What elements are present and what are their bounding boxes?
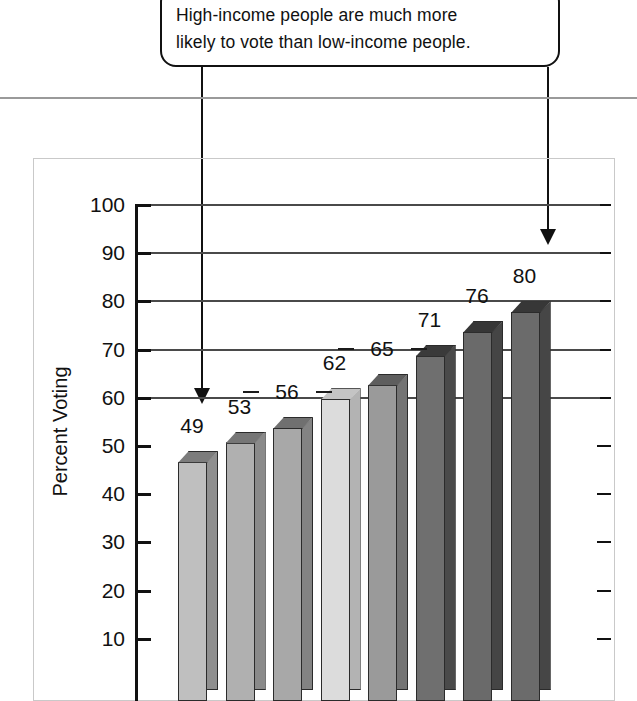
- y-tick-label-50: 50: [79, 434, 125, 458]
- bar-side-face: [350, 388, 361, 690]
- figure-root: High-income people are much more likely …: [0, 0, 637, 701]
- bar-76: [463, 321, 492, 701]
- bar-49: [178, 451, 207, 701]
- right-tick-40: [597, 493, 611, 495]
- y-axis-title: Percent Voting: [49, 332, 72, 532]
- bar-front-face: [463, 332, 492, 701]
- bar-80: [511, 301, 540, 701]
- y-tick-20: [135, 590, 151, 593]
- bar-value-label-71: 71: [406, 308, 454, 332]
- value-leader-dash: [338, 348, 354, 350]
- right-tick-20: [597, 590, 611, 592]
- bar-56: [273, 417, 302, 701]
- right-tick-50: [597, 445, 611, 447]
- y-tick-50: [135, 445, 151, 448]
- bar-front-face: [368, 385, 397, 701]
- gridline-100: [151, 204, 600, 206]
- bar-53: [226, 432, 255, 701]
- bar-value-label-49: 49: [168, 414, 216, 438]
- y-tick-60: [135, 397, 151, 400]
- bar-value-label-76: 76: [453, 284, 501, 308]
- bar-value-label-53: 53: [216, 395, 264, 419]
- bar-side-face: [255, 432, 266, 690]
- bar-front-face: [226, 443, 255, 701]
- bar-side-face: [302, 417, 313, 690]
- right-tick-10: [597, 638, 611, 640]
- y-tick-label-90: 90: [79, 241, 125, 265]
- bar-side-face: [492, 321, 503, 690]
- bar-front-face: [321, 399, 350, 701]
- bar-71: [416, 345, 445, 701]
- plot-area: Percent Voting 1009080706050403020104953…: [0, 0, 637, 701]
- y-axis-line: [135, 205, 138, 701]
- bar-front-face: [416, 356, 445, 701]
- y-tick-label-20: 20: [79, 579, 125, 603]
- bar-front-face: [178, 462, 207, 701]
- bar-side-face: [445, 345, 456, 690]
- y-tick-100: [135, 204, 151, 207]
- y-tick-90: [135, 252, 151, 255]
- right-tick-30: [597, 541, 611, 543]
- bar-value-label-62: 62: [311, 351, 359, 375]
- bar-value-label-80: 80: [501, 264, 549, 288]
- y-tick-70: [135, 349, 151, 352]
- bar-value-label-56: 56: [263, 380, 311, 404]
- bar-value-label-65: 65: [358, 337, 406, 361]
- value-leader-dash: [316, 391, 332, 393]
- bar-front-face: [273, 428, 302, 701]
- y-tick-30: [135, 541, 151, 544]
- bar-front-face: [511, 312, 540, 701]
- y-tick-label-80: 80: [79, 289, 125, 313]
- y-tick-10: [135, 638, 151, 641]
- bar-65: [368, 374, 397, 701]
- bar-62: [321, 388, 350, 701]
- y-tick-40: [135, 493, 151, 496]
- bar-side-face: [540, 301, 551, 690]
- y-tick-label-30: 30: [79, 530, 125, 554]
- y-tick-label-70: 70: [79, 338, 125, 362]
- y-tick-label-40: 40: [79, 482, 125, 506]
- gridline-90: [151, 252, 600, 254]
- value-leader-dash: [411, 348, 427, 350]
- value-leader-dash: [243, 391, 259, 393]
- y-tick-80: [135, 300, 151, 303]
- bar-side-face: [397, 374, 408, 690]
- y-tick-label-60: 60: [79, 386, 125, 410]
- y-tick-label-10: 10: [79, 627, 125, 651]
- bar-side-face: [207, 451, 218, 690]
- y-tick-label-100: 100: [79, 193, 125, 217]
